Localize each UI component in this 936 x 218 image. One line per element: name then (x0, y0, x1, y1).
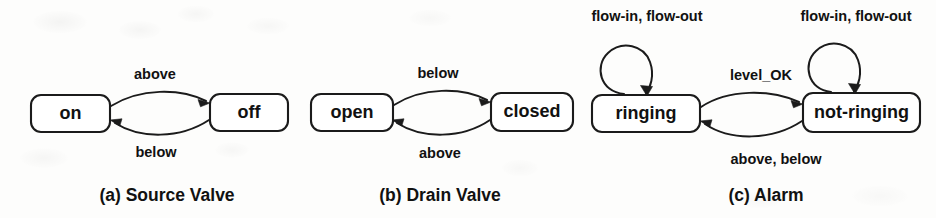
state-label-ringing: ringing (616, 103, 677, 123)
state-node-open[interactable]: open (311, 94, 393, 131)
transition-off-to-on[interactable]: below (110, 119, 209, 160)
transition-label-below-a: below (135, 144, 177, 160)
state-node-ringing[interactable]: ringing (592, 95, 700, 132)
self-loop-ringing[interactable]: flow-in, flow-out (591, 8, 702, 96)
transition-label-level-ok: level_OK (730, 67, 793, 83)
transition-arc-open-to-closed (394, 91, 487, 105)
transition-open-to-closed[interactable]: below (394, 65, 491, 106)
self-loop-not-ringing[interactable]: flow-in, flow-out (800, 8, 911, 94)
transition-label-below-b: below (417, 65, 459, 81)
transition-arc-not-ringing-to-ringing (705, 121, 802, 136)
panel-source-valve: on off above below (a) Source Valve (31, 66, 288, 205)
transition-arc-off-to-on (115, 120, 209, 135)
state-label-off: off (238, 102, 262, 122)
transition-label-above-below: above, below (730, 151, 822, 167)
panel-drain-valve: open closed below above (b) Drain Valve (311, 65, 573, 205)
arrowhead-off-to-on (110, 119, 122, 126)
arrowhead-not-ringing-to-ringing (700, 120, 712, 127)
transition-ringing-to-not-ringing[interactable]: level_OK (701, 67, 803, 108)
panel-caption-drain-valve: (b) Drain Valve (379, 185, 501, 205)
state-diagram-canvas: on off above below (a) Source Valve (0, 0, 936, 218)
transition-label-above-a: above (134, 66, 176, 82)
transition-label-above-b: above (419, 145, 461, 161)
state-node-on[interactable]: on (31, 95, 110, 132)
self-loop-label-ringing: flow-in, flow-out (591, 8, 702, 24)
panel-caption-alarm: (c) Alarm (728, 185, 803, 205)
transition-arc-on-to-off (111, 92, 206, 106)
self-loop-label-not-ringing: flow-in, flow-out (800, 8, 911, 24)
state-node-off[interactable]: off (210, 94, 288, 131)
state-label-on: on (60, 103, 82, 123)
panel-alarm: ringing not-ringing flow-in, flow-out fl… (591, 8, 920, 205)
transition-closed-to-open[interactable]: above (392, 119, 490, 161)
state-label-open: open (331, 102, 374, 122)
panel-caption-source-valve: (a) Source Valve (99, 185, 234, 205)
transition-arc-closed-to-open (397, 120, 490, 135)
state-label-not-ringing: not-ringing (814, 102, 909, 122)
state-node-not-ringing[interactable]: not-ringing (803, 93, 920, 132)
state-node-closed[interactable]: closed (491, 93, 573, 131)
transition-arc-ringing-to-not-ringing (701, 93, 799, 107)
state-label-closed: closed (503, 101, 560, 121)
transition-on-to-off[interactable]: above (111, 66, 210, 107)
figure-root: on off above below (a) Source Valve (0, 0, 936, 218)
